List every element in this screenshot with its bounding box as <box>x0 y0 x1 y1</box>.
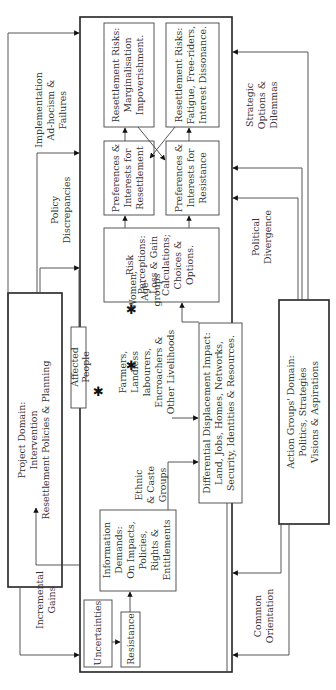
svg-text:Resistance: Resistance <box>125 613 136 665</box>
project-domain-line: Intervention <box>28 411 39 470</box>
svg-text:Implementation: Implementation <box>33 72 44 147</box>
svg-text:Preferences &: Preferences & <box>110 144 121 212</box>
svg-text:Age-: Age- <box>139 279 150 302</box>
farmers-group-label: Farmers, Landless labourers, Encroachers… <box>117 329 176 414</box>
svg-text:On Impacts,: On Impacts, <box>125 521 136 579</box>
action-groups-line: Visions & Aspirations <box>309 361 320 464</box>
svg-text:Interests for: Interests for <box>185 148 196 208</box>
svg-text:Choices &: Choices & <box>172 241 183 290</box>
preferences-resettlement-box: Preferences & Interests for Resettlement <box>104 141 154 215</box>
svg-text:Orientation: Orientation <box>264 589 275 644</box>
svg-text:Interest Dissonance.: Interest Dissonance. <box>197 26 208 124</box>
svg-text:Encroachers &: Encroachers & <box>153 336 164 407</box>
svg-text:Gains: Gains <box>46 586 57 613</box>
risks-marginalisation-box: Resettlement Risks: Marginalisation Impo… <box>104 23 154 127</box>
project-domain-box: Project Domain: Intervention Resettlemen… <box>8 293 62 587</box>
svg-text:Other Livelihoods: Other Livelihoods <box>165 329 176 414</box>
implementation-label: Implementation Ad-hocism & Failures <box>33 72 68 147</box>
svg-text:Marginalisation: Marginalisation <box>122 37 133 112</box>
svg-text:Discrepancies: Discrepancies <box>61 176 72 243</box>
svg-text:Differential Displacement Impa: Differential Displacement Impact: <box>201 332 212 493</box>
ethnic-caste-label: Ethnic & Caste Groups <box>133 465 168 504</box>
svg-text:Options.: Options. <box>184 245 195 285</box>
project-domain-line: Resettlement Policies & Planning <box>40 361 51 520</box>
svg-text:Land, Jobs, Homes, Networks,: Land, Jobs, Homes, Networks, <box>213 341 224 485</box>
svg-text:Uncertainties: Uncertainties <box>92 600 103 665</box>
svg-text:Options &: Options & <box>256 81 267 129</box>
svg-text:Resettlement Risks:: Resettlement Risks: <box>110 28 121 123</box>
svg-text:Divergence: Divergence <box>262 209 273 264</box>
svg-text:Resistance: Resistance <box>197 152 208 204</box>
incremental-gains-label: Incremental Gains <box>34 571 57 629</box>
action-groups-domain-box: Action Groups' Domain: Politics, Strateg… <box>279 300 329 524</box>
svg-text:Information: Information <box>101 522 112 578</box>
svg-text:Entitlements: Entitlements <box>161 519 172 580</box>
svg-text:Impoverishment.: Impoverishment. <box>134 35 145 116</box>
svg-text:Landless: Landless <box>129 351 140 393</box>
action-groups-title: Action Groups' Domain: <box>285 355 296 469</box>
action-groups-line: Politics, Strategies <box>297 367 308 456</box>
svg-text:& Caste: & Caste <box>145 465 156 504</box>
preferences-resistance-box: Preferences & Interests for Resistance <box>166 141 219 215</box>
svg-text:Demands:: Demands: <box>113 526 124 574</box>
svg-text:Policies,: Policies, <box>137 530 148 569</box>
svg-text:labourers,: labourers, <box>141 348 152 397</box>
differential-impact-box: Differential Displacement Impact: Land, … <box>199 323 242 503</box>
svg-text:Incremental: Incremental <box>34 571 45 629</box>
affected-people-box: Affected People <box>69 327 91 408</box>
svg-text:Resettlement: Resettlement <box>134 146 145 210</box>
svg-text:Political: Political <box>250 218 261 256</box>
policy-discrepancies-label: Policy Discrepancies <box>49 176 72 243</box>
svg-text:Strategic: Strategic <box>244 83 255 127</box>
strategic-options-label: Strategic Options & Dilemmas <box>244 81 279 129</box>
project-domain-title: Project Domain: <box>16 402 27 479</box>
political-divergence-label: Political Divergence <box>250 209 273 264</box>
svg-text:Rights &: Rights & <box>149 529 160 571</box>
svg-text:groups: groups <box>151 273 162 306</box>
svg-text:Interests for: Interests for <box>122 148 133 208</box>
svg-text:Resettlement Risks:: Resettlement Risks: <box>173 28 184 123</box>
svg-text:Security, Identities & Resourc: Security, Identities & Resources. <box>225 335 236 491</box>
risks-fatigue-box: Resettlement Risks: Fatigue, Free-riders… <box>166 23 219 127</box>
svg-text:Affected: Affected <box>69 347 80 387</box>
svg-text:Women,: Women, <box>127 271 138 309</box>
left-flows <box>8 33 80 655</box>
svg-text:Dilemmas: Dilemmas <box>268 81 279 128</box>
resettlement-diagram: Project Domain: Intervention Resettlemen… <box>0 0 336 690</box>
svg-text:Policy: Policy <box>49 195 60 224</box>
common-orientation-label: Common Orientation <box>252 589 275 644</box>
svg-text:People: People <box>80 351 91 383</box>
svg-text:Common: Common <box>252 595 263 637</box>
svg-text:Failures: Failures <box>57 91 68 130</box>
svg-text:Ad-hocism &: Ad-hocism & <box>45 80 56 142</box>
information-demands-box: Information Demands: On Impacts, Policie… <box>100 510 176 591</box>
right-flows <box>233 52 308 655</box>
svg-text:Groups: Groups <box>157 468 168 503</box>
svg-text:Farmers,: Farmers, <box>117 351 128 394</box>
resistance-box: Resistance <box>121 612 140 667</box>
star-marker-icon: ✱ <box>93 384 104 399</box>
svg-text:Fatigue, Free-riders,: Fatigue, Free-riders, <box>185 26 196 124</box>
svg-text:Preferences &: Preferences & <box>173 144 184 212</box>
uncertainties-box: Uncertainties <box>84 600 112 667</box>
svg-text:Ethnic: Ethnic <box>133 470 144 501</box>
